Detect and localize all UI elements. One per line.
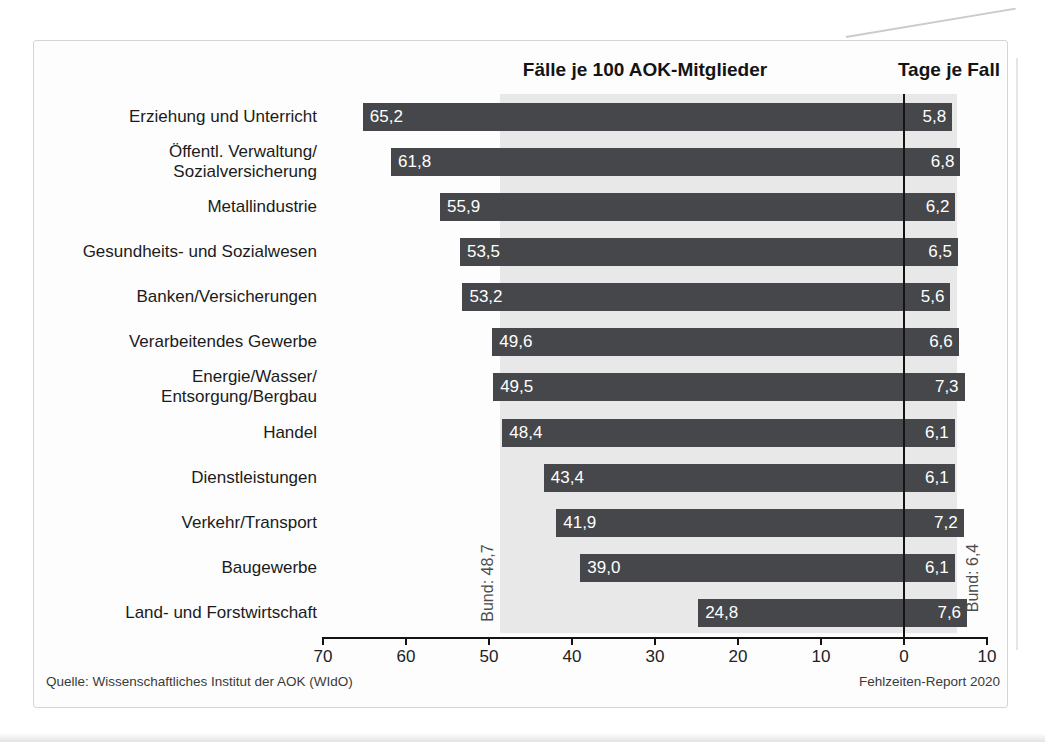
tage-value-label: 7,2 xyxy=(934,509,958,537)
category-label: Baugewerbe xyxy=(34,558,317,578)
category-label: Handel xyxy=(34,423,317,443)
x-axis-tick xyxy=(903,637,905,645)
figure-box: Fälle je 100 AOK-Mitglieder Tage je Fall… xyxy=(33,40,1008,708)
category-label: Banken/Versicherungen xyxy=(34,287,317,307)
bar-1: 65,25,8 xyxy=(363,103,952,131)
faelle-value-label: 65,2 xyxy=(370,103,403,131)
category-label: Erziehung und Unterricht xyxy=(34,107,317,127)
plot-area: Erziehung und Unterricht65,25,8Öffentl. … xyxy=(34,41,1009,709)
category-label: Land- und Forstwirtschaft xyxy=(34,603,317,623)
tage-value-label: 6,1 xyxy=(925,419,949,447)
faelle-value-label: 24,8 xyxy=(705,599,738,627)
bund-left-label: Bund: 48,7 xyxy=(479,544,497,621)
tage-value-label: 6,1 xyxy=(925,554,949,582)
faelle-value-label: 55,9 xyxy=(447,193,480,221)
category-label: Verkehr/Transport xyxy=(34,513,317,533)
bar-11: 39,06,1 xyxy=(580,554,954,582)
faelle-value-label: 49,6 xyxy=(499,328,532,356)
tage-value-label: 5,6 xyxy=(921,283,945,311)
faelle-value-label: 53,5 xyxy=(467,238,500,266)
bar-3: 55,96,2 xyxy=(440,193,955,221)
x-axis-tick xyxy=(322,637,324,645)
category-label: Energie/Wasser/ Entsorgung/Bergbau xyxy=(34,367,317,407)
x-axis-tick xyxy=(986,637,988,645)
tage-value-label: 6,8 xyxy=(931,148,955,176)
faelle-value-label: 61,8 xyxy=(398,148,431,176)
category-label: Metallindustrie xyxy=(34,197,317,217)
faelle-value-label: 48,4 xyxy=(509,419,542,447)
tage-value-label: 5,8 xyxy=(922,103,946,131)
bar-2: 61,86,8 xyxy=(391,148,960,176)
scan-artifact-page-edge xyxy=(1016,58,1018,650)
x-axis-tick xyxy=(654,637,656,645)
report-name: Fehlzeiten-Report 2020 xyxy=(634,674,1000,689)
tage-value-label: 7,6 xyxy=(937,599,961,627)
bar-7: 49,57,3 xyxy=(493,373,964,401)
tage-value-label: 6,1 xyxy=(925,464,949,492)
x-axis-tick xyxy=(488,637,490,645)
x-axis-tick xyxy=(405,637,407,645)
scan-artifact-bottom-shadow xyxy=(0,733,1045,742)
x-axis-tick-label: 30 xyxy=(632,647,678,667)
x-axis-tick-label: 60 xyxy=(383,647,429,667)
bar-6: 49,66,6 xyxy=(492,328,958,356)
faelle-value-label: 53,2 xyxy=(469,283,502,311)
x-axis-tick-label: 20 xyxy=(715,647,761,667)
tage-value-label: 6,5 xyxy=(928,238,952,266)
scan-artifact-page-curl xyxy=(846,8,1016,38)
x-axis-tick xyxy=(571,637,573,645)
tage-value-label: 6,2 xyxy=(926,193,950,221)
x-axis-tick-label: 0 xyxy=(881,647,927,667)
x-axis-tick xyxy=(737,637,739,645)
category-label: Verarbeitendes Gewerbe xyxy=(34,332,317,352)
x-axis-tick-label: 10 xyxy=(798,647,844,667)
x-axis-tick xyxy=(820,637,822,645)
x-axis-tick-label: 10 xyxy=(964,647,1010,667)
faelle-value-label: 43,4 xyxy=(551,464,584,492)
bar-5: 53,25,6 xyxy=(462,283,950,311)
category-label: Dienstleistungen xyxy=(34,468,317,488)
bar-12: 24,87,6 xyxy=(698,599,967,627)
tage-value-label: 6,6 xyxy=(929,328,953,356)
bar-4: 53,56,5 xyxy=(460,238,958,266)
tage-value-label: 7,3 xyxy=(935,373,959,401)
scanned-page: { "figure": { "footer_left": "Quelle: Wi… xyxy=(0,0,1045,742)
x-axis-tick-label: 70 xyxy=(300,647,346,667)
bar-9: 43,46,1 xyxy=(544,464,955,492)
x-axis-tick-label: 40 xyxy=(549,647,595,667)
faelle-value-label: 41,9 xyxy=(563,509,596,537)
zero-axis-line xyxy=(903,94,905,637)
source-note: Quelle: Wissenschaftliches Institut der … xyxy=(46,674,353,689)
category-label: Gesundheits- und Sozialwesen xyxy=(34,242,317,262)
category-label: Öffentl. Verwaltung/ Sozialversicherung xyxy=(34,142,317,182)
bund-right-label: Bund: 6,4 xyxy=(964,544,982,613)
faelle-value-label: 39,0 xyxy=(587,554,620,582)
bar-8: 48,46,1 xyxy=(502,419,954,447)
faelle-value-label: 49,5 xyxy=(500,373,533,401)
x-axis-tick-label: 50 xyxy=(466,647,512,667)
